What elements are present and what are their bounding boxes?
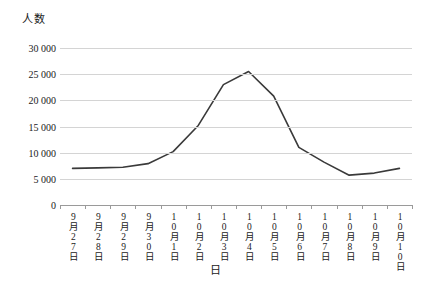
y-axis-tick-label: 30 000 (0, 43, 56, 54)
x-axis-tick-label: 9月30日 (143, 212, 153, 262)
x-axis-tick-label: 10月3日 (219, 212, 229, 262)
gridline (60, 153, 412, 154)
x-axis-tick-label: 10月8日 (344, 212, 354, 262)
x-axis-tick-label: 10月5日 (269, 212, 279, 262)
x-axis-tick-mark (286, 205, 287, 209)
line-chart: 人数 30 00025 00020 00015 00010 0005 0000 … (0, 0, 431, 291)
plot-area (60, 48, 412, 205)
x-axis-tick-label: 9月28日 (93, 212, 103, 262)
x-axis-tick-label: 10月6日 (294, 212, 304, 262)
x-axis-tick-mark (135, 205, 136, 209)
gridline (60, 179, 412, 180)
x-axis-tick-label: 10月9日 (370, 212, 380, 262)
x-axis-tick-mark (110, 205, 111, 209)
y-axis-tick-label: 15 000 (0, 121, 56, 132)
x-axis-tick-label: 9月29日 (118, 212, 128, 262)
y-axis-tick-label: 0 (0, 200, 56, 211)
gridline (60, 48, 412, 49)
x-axis-tick-mark (85, 205, 86, 209)
x-axis-tick-mark (311, 205, 312, 209)
x-axis-tick-mark (60, 205, 61, 209)
x-axis-tick-label: 10月1日 (168, 212, 178, 262)
y-axis-tick-labels: 30 00025 00020 00015 00010 0005 0000 (0, 48, 56, 205)
gridline (60, 100, 412, 101)
y-axis-tick-label: 20 000 (0, 95, 56, 106)
y-axis-title: 人数 (22, 10, 45, 26)
gridline (60, 74, 412, 75)
y-axis-tick-label: 25 000 (0, 69, 56, 80)
x-axis-tick-mark (362, 205, 363, 209)
x-axis-tick-mark (261, 205, 262, 209)
y-axis-tick-label: 10 000 (0, 147, 56, 158)
x-axis-tick-label: 10月7日 (319, 212, 329, 262)
x-axis-tick-label: 10月4日 (244, 212, 254, 262)
x-axis-tick-mark (387, 205, 388, 209)
x-axis-tick-mark (337, 205, 338, 209)
x-axis-tick-mark (236, 205, 237, 209)
y-axis-tick-label: 5 000 (0, 173, 56, 184)
x-axis-tick-label: 10月2日 (194, 212, 204, 262)
x-axis-tick-mark (161, 205, 162, 209)
x-axis-tick-mark (211, 205, 212, 209)
x-axis-title: 日 (0, 261, 431, 277)
x-axis-tick-mark (186, 205, 187, 209)
x-axis-tick-mark (412, 205, 413, 209)
x-axis-tick-label: 9月27日 (68, 212, 78, 262)
gridline (60, 127, 412, 128)
